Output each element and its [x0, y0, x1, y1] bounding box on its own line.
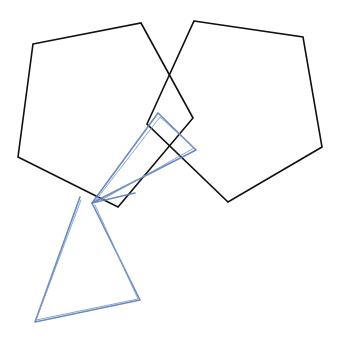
blue-sketch-upper-loop [92, 113, 196, 203]
left-pentagon [18, 23, 193, 207]
drawing-canvas [0, 0, 338, 340]
blue-sketch-lower-triangle [35, 197, 140, 322]
blue-sketch-lower-triangle-overstroke [36, 200, 138, 320]
right-pentagon [147, 21, 322, 202]
